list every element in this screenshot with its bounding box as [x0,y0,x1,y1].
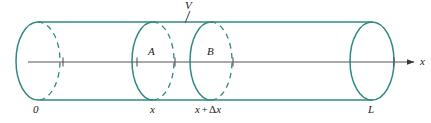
disc-b-solid-arc [190,22,211,100]
volume-leader-stroke [185,11,190,23]
label-cross-section-a: A [148,46,155,57]
label-delta-term-plus: + [200,103,209,115]
left-end-cap-dashed-arc [38,22,60,100]
cylinder-diagram-figure: V A B 0 x x+Δx L x [0,0,431,123]
disc-a-dashed-arc [153,22,174,100]
cross-section-disc-b [190,22,232,100]
right-end-cap [350,22,394,100]
label-position-x-plus-delta-x: x+Δx [195,104,221,115]
label-volume: V [185,0,192,11]
cylinder-body-lines [38,22,372,100]
volume-leader-line [185,11,190,23]
disc-b-dashed-arc [211,22,232,100]
left-end-cap-solid-arc [16,22,38,100]
label-origin: 0 [33,104,39,115]
label-cross-section-b: B [207,46,214,57]
label-delta-term-var: x [216,103,221,115]
right-end-cap-ellipse [350,22,394,100]
cross-section-disc-a [132,22,174,100]
label-length: L [368,104,374,115]
label-position-x: x [150,104,155,115]
disc-a-solid-arc [132,22,153,100]
label-axis-x: x [420,56,425,67]
central-axis [28,58,414,67]
left-end-cap [16,22,60,100]
